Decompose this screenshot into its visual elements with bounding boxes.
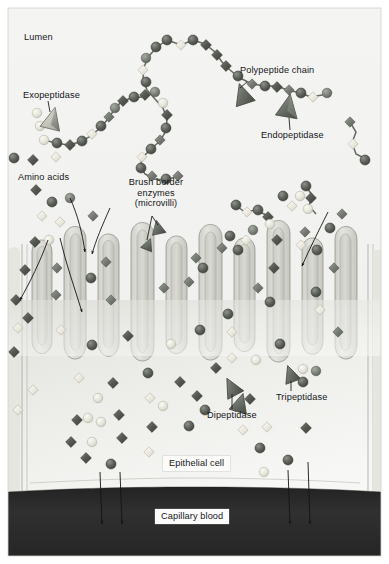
label-lumen: Lumen — [24, 32, 53, 43]
label-capillary-blood: Capillary blood — [155, 509, 229, 524]
label-brush-border-enzymes: Brush border enzymes (microvilli) — [112, 177, 200, 209]
diagram-canvas — [0, 0, 389, 564]
label-epithelial-cell: Epithelial cell — [163, 456, 230, 471]
label-brush-border-line2: enzymes — [137, 188, 174, 198]
label-polypeptide-chain: Polypeptide chain — [240, 65, 314, 76]
protein-digestion-diagram: Lumen Exopeptidase Polypeptide chain End… — [0, 0, 389, 564]
label-tripeptidase: Tripeptidase — [276, 392, 327, 403]
label-brush-border-line1: Brush border — [129, 177, 183, 187]
label-amino-acids: Amino acids — [18, 172, 69, 183]
label-exopeptidase: Exopeptidase — [23, 90, 80, 101]
label-brush-border-line3: (microvilli) — [135, 198, 178, 208]
label-dipeptidase: Dipeptidase — [207, 410, 257, 421]
label-endopeptidase: Endopeptidase — [261, 130, 324, 141]
